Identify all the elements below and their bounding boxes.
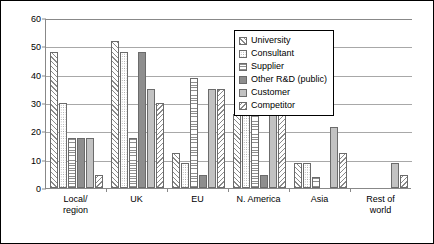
bar-competitor [400, 175, 408, 188]
legend-label: Competitor [251, 101, 295, 110]
legend-swatch-icon [239, 76, 247, 84]
x-axis-label-2: EU [167, 194, 228, 216]
legend-item-competitor[interactable]: Competitor [239, 99, 327, 112]
bar-supplier [68, 138, 76, 188]
bar-consultant [181, 163, 189, 189]
x-axis-label-line: world [350, 205, 411, 216]
bar-competitor [156, 103, 164, 188]
bar-supplier [129, 138, 137, 188]
bar-customer [391, 163, 399, 189]
legend-label: Other R&D (public) [251, 75, 327, 84]
bar-other-r-d-public [77, 138, 85, 188]
bar-chart-figure: 0102030405060 Local/regionUKEUN. America… [0, 0, 434, 244]
x-axis-label-4: Asia [289, 194, 350, 216]
bar-customer [147, 89, 155, 188]
legend-item-university[interactable]: University [239, 34, 327, 47]
plot-area: 0102030405060 [45, 19, 411, 189]
y-tick-mark-0 [42, 189, 46, 190]
legend-swatch-icon [239, 102, 247, 110]
bar-university [294, 163, 302, 189]
x-axis-label-line: Local/ [45, 194, 106, 205]
x-axis-label-line: UK [106, 194, 167, 205]
bar-university [233, 114, 241, 188]
x-axis-label-1: UK [106, 194, 167, 216]
bar-competitor [278, 114, 286, 188]
x-axis-label-line: region [45, 205, 106, 216]
bar-group-uk [107, 18, 168, 188]
legend-item-consultant[interactable]: Consultant [239, 47, 327, 60]
bar-consultant [120, 52, 128, 188]
x-axis-label-0: Local/region [45, 194, 106, 216]
bar-consultant [59, 103, 67, 188]
x-axis-label-5: Rest ofworld [350, 194, 411, 216]
legend-swatch-icon [239, 89, 247, 97]
bar-university [172, 153, 180, 188]
y-tick-label-60: 60 [19, 15, 41, 24]
bar-competitor [339, 153, 347, 188]
legend-swatch-icon [239, 50, 247, 58]
bar-group-rest-of-world [351, 18, 412, 188]
y-tick-label-40: 40 [19, 71, 41, 80]
x-axis-label-3: N. America [228, 194, 289, 216]
bar-group-local-region [46, 18, 107, 188]
bar-customer [86, 138, 94, 188]
legend-label: Consultant [251, 49, 294, 58]
legend-item-supplier[interactable]: Supplier [239, 60, 327, 73]
legend-swatch-icon [239, 63, 247, 71]
y-tick-label-30: 30 [19, 100, 41, 109]
x-axis-label-line: Asia [289, 194, 350, 205]
x-axis-label-line: N. America [228, 194, 289, 205]
y-tick-label-20: 20 [19, 128, 41, 137]
bar-university [111, 41, 119, 188]
x-tick-mark [289, 188, 290, 192]
x-tick-mark [228, 188, 229, 192]
x-tick-mark [350, 188, 351, 192]
x-axis-labels: Local/regionUKEUN. AmericaAsiaRest ofwor… [45, 194, 411, 216]
bar-consultant [242, 114, 250, 188]
bar-customer [208, 89, 216, 188]
y-tick-label-50: 50 [19, 43, 41, 52]
bar-other-r-d-public [260, 175, 268, 188]
legend-label: Supplier [251, 62, 284, 71]
chart-legend: UniversityConsultantSupplierOther R&D (p… [234, 30, 334, 116]
bar-competitor [95, 175, 103, 188]
bar-supplier [312, 177, 320, 188]
bar-groups [46, 18, 412, 188]
bar-other-r-d-public [199, 175, 207, 188]
x-axis-label-line: Rest of [350, 194, 411, 205]
bar-competitor [217, 89, 225, 188]
bar-supplier [190, 78, 198, 189]
legend-item-customer[interactable]: Customer [239, 86, 327, 99]
bar-customer [330, 127, 338, 188]
y-tick-label-0: 0 [19, 185, 41, 194]
legend-label: Customer [251, 88, 290, 97]
x-tick-mark [106, 188, 107, 192]
bar-other-r-d-public [138, 52, 146, 188]
bar-consultant [303, 163, 311, 189]
bar-group-eu [168, 18, 229, 188]
x-axis-label-line: EU [167, 194, 228, 205]
legend-item-other-r-d-public[interactable]: Other R&D (public) [239, 73, 327, 86]
y-tick-label-10: 10 [19, 156, 41, 165]
legend-swatch-icon [239, 37, 247, 45]
legend-label: University [251, 36, 291, 45]
bar-university [50, 52, 58, 188]
x-tick-mark [167, 188, 168, 192]
